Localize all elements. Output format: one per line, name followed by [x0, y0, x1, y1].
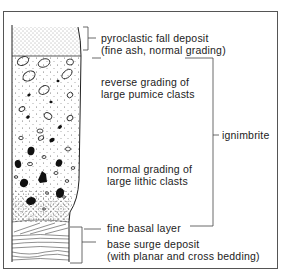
label-fall-deposit: pyroclastic fall deposit (fine ash, norm… [101, 32, 226, 56]
label-basal-layer: fine basal layer [107, 222, 181, 234]
layer-base-surge [12, 220, 69, 260]
label-base-surge: base surge deposit (with planar and cros… [107, 238, 260, 262]
label-reverse-grading: reverse grading of large pumice clasts [101, 76, 195, 100]
filled-clast-icon [49, 101, 52, 104]
surge-bracket [70, 227, 82, 263]
label-normal-grading: normal grading of large lithic clasts [107, 163, 192, 187]
fall-bracket [83, 27, 88, 50]
filled-clast-icon [57, 80, 60, 82]
layer-fall-deposit [12, 27, 81, 56]
label-ignimbrite: ignimbrite [222, 129, 270, 141]
